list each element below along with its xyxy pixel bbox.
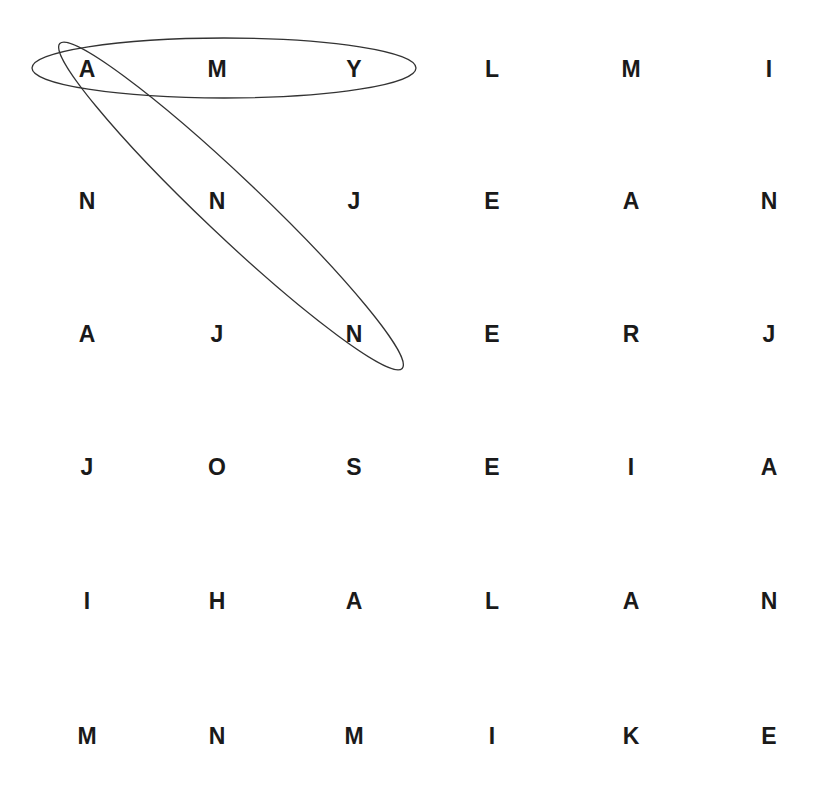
- grid-cell[interactable]: E: [462, 314, 522, 354]
- grid-cell[interactable]: I: [601, 447, 661, 487]
- grid-cell[interactable]: M: [57, 716, 117, 756]
- grid-cell[interactable]: N: [57, 181, 117, 221]
- grid-cell[interactable]: L: [462, 49, 522, 89]
- grid-cell[interactable]: H: [187, 581, 247, 621]
- grid-cell[interactable]: M: [324, 716, 384, 756]
- grid-cell[interactable]: M: [601, 49, 661, 89]
- grid-cell[interactable]: A: [324, 581, 384, 621]
- grid-cell[interactable]: I: [739, 49, 799, 89]
- grid-cell[interactable]: E: [462, 447, 522, 487]
- grid-cell[interactable]: J: [187, 314, 247, 354]
- grid-cell[interactable]: S: [324, 447, 384, 487]
- grid-cell[interactable]: N: [739, 181, 799, 221]
- grid-cell[interactable]: O: [187, 447, 247, 487]
- grid-cell[interactable]: R: [601, 314, 661, 354]
- word-search-grid: A M Y L M I N N J E A N A J N E R J J O …: [0, 0, 827, 797]
- grid-cell[interactable]: E: [739, 716, 799, 756]
- grid-cell[interactable]: A: [57, 314, 117, 354]
- grid-cell[interactable]: M: [187, 49, 247, 89]
- grid-cell[interactable]: I: [57, 581, 117, 621]
- grid-cell[interactable]: Y: [324, 49, 384, 89]
- grid-cell[interactable]: N: [324, 314, 384, 354]
- grid-cell[interactable]: J: [739, 314, 799, 354]
- grid-cell[interactable]: N: [187, 181, 247, 221]
- grid-cell[interactable]: A: [739, 447, 799, 487]
- grid-cell[interactable]: E: [462, 181, 522, 221]
- grid-cell[interactable]: A: [57, 49, 117, 89]
- grid-cell[interactable]: N: [187, 716, 247, 756]
- grid-cell[interactable]: N: [739, 581, 799, 621]
- grid-cell[interactable]: A: [601, 181, 661, 221]
- grid-cell[interactable]: J: [324, 181, 384, 221]
- grid-cell[interactable]: K: [601, 716, 661, 756]
- grid-cell[interactable]: I: [462, 716, 522, 756]
- grid-cell[interactable]: J: [57, 447, 117, 487]
- grid-cell[interactable]: A: [601, 581, 661, 621]
- grid-cell[interactable]: L: [462, 581, 522, 621]
